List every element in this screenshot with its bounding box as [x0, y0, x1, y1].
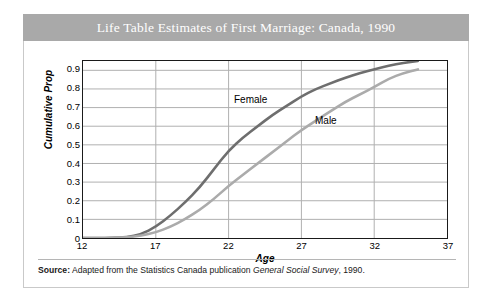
- series-label-female: Female: [234, 95, 267, 105]
- gridlines: [83, 61, 447, 238]
- x-tick-label: 22: [223, 241, 234, 251]
- chart-area: Cumulative Prop 00.10.20.30.40.50.60.70.…: [24, 41, 470, 288]
- y-tick-label: 0.3: [54, 178, 80, 188]
- figure-card: Cumulative Prop 00.10.20.30.40.50.60.70.…: [23, 41, 469, 288]
- data-lines: [83, 61, 418, 238]
- series-lines: [83, 61, 447, 238]
- y-tick-label: 0.1: [54, 215, 80, 225]
- x-tick-label: 37: [443, 241, 454, 251]
- series-line-female: [83, 61, 418, 238]
- series-label-male: Male: [315, 116, 337, 126]
- y-tick-label: 0.2: [54, 197, 80, 207]
- y-tick-label: 0.5: [54, 140, 80, 150]
- y-axis-ticks: 00.10.20.30.40.50.60.70.80.9: [50, 60, 80, 239]
- source-text-before: Adapted from the Statistics Canada publi…: [70, 265, 253, 275]
- y-tick-label: 0.4: [54, 159, 80, 169]
- x-tick-label: 32: [370, 241, 381, 251]
- y-tick-label: 0.8: [54, 84, 80, 94]
- x-tick-label: 27: [296, 241, 307, 251]
- y-tick-label: 0.6: [54, 121, 80, 131]
- figure-title-band: Life Table Estimates of First Marriage: …: [23, 14, 469, 41]
- source-publication: General Social Survey: [253, 265, 339, 275]
- plot-frame: [82, 60, 448, 239]
- source-text-after: , 1990.: [338, 265, 364, 275]
- figure-container: Life Table Estimates of First Marriage: …: [23, 14, 469, 288]
- figure-source-note: Source: Adapted from the Statistics Cana…: [38, 265, 458, 276]
- footer-divider: [38, 259, 456, 260]
- figure-title: Life Table Estimates of First Marriage: …: [97, 20, 396, 36]
- x-tick-label: 17: [150, 241, 161, 251]
- y-tick-label: 0.9: [54, 65, 80, 75]
- source-prefix: Source:: [38, 265, 70, 275]
- x-tick-label: 12: [77, 241, 88, 251]
- y-tick-label: 0.7: [54, 102, 80, 112]
